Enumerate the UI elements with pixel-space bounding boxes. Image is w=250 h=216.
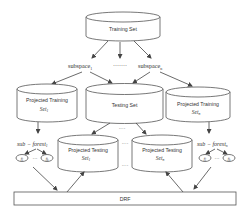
testing-ellipsis: ···· [119, 126, 126, 131]
arrow-subspacen-to-testing-set [133, 72, 150, 83]
arrow-to-subspace-n [134, 41, 151, 58]
testing-set-label: Testing Set [112, 102, 138, 108]
projected-training-set-n-cylinder: Projected Training Setn [166, 87, 230, 122]
svg-text:Projected Training: Projected Training [177, 101, 219, 107]
arrow-drf-to-projected-testing-1 [67, 172, 84, 192]
between-dots-top: ···· [122, 141, 129, 146]
projected-testing-set-n-cylinder: Projected Testing Setn [132, 135, 192, 172]
drf-diagram: Training Set subspace1 ······· subspacen… [0, 0, 250, 216]
testing-set-cylinder: Testing Set [86, 84, 163, 124]
training-set-cylinder: Training Set [86, 12, 160, 41]
training-set-label: Training Set [109, 26, 137, 32]
svg-text:Projected Training: Projected Training [26, 97, 68, 103]
arrow-subspacen-to-projected-training-n [160, 72, 192, 86]
sub-forest-n: sub − forestn f1 ··· fk [197, 141, 235, 162]
drf-bar: DRF [14, 192, 236, 205]
sub-forest-1: sub − forest1 f1 ··· fk [16, 141, 53, 162]
svg-text:sub − forestn: sub − forestn [197, 141, 228, 148]
svg-text:sub − forest1: sub − forest1 [17, 141, 48, 148]
arrow-subspace1-to-projected-training-1 [52, 72, 82, 84]
arrow-subspace1-to-testing-set [90, 72, 112, 83]
projected-training-set-1-cylinder: Projected Training Set1 [17, 84, 77, 122]
svg-text:Projected Testing: Projected Testing [142, 147, 182, 153]
drf-label: DRF [120, 196, 131, 202]
svg-text:Projected Testing: Projected Testing [68, 147, 108, 153]
svg-text:···: ··· [33, 156, 38, 161]
subspace-1-label: subspace1 [68, 62, 92, 71]
subspace-n-label: subspacen [138, 62, 162, 71]
arrow-to-subspace-1 [92, 41, 108, 58]
between-dots-bottom: ···· [122, 163, 129, 168]
arrow-sub-forest-n-to-drf [194, 167, 211, 189]
arrow-drf-to-projected-testing-n [166, 172, 183, 192]
projected-testing-set-1-cylinder: Projected Testing Set1 [58, 135, 118, 172]
svg-text:subspace1: subspace1 [68, 62, 92, 71]
subspace-ellipsis: ······· [113, 63, 127, 69]
svg-text:···: ··· [215, 156, 220, 161]
arrow-testing-to-projected-testing-n [136, 123, 146, 134]
arrow-sub-forest-1-to-drf [33, 167, 57, 190]
svg-text:subspacen: subspacen [138, 62, 162, 71]
arrow-testing-to-projected-testing-1 [92, 123, 110, 134]
